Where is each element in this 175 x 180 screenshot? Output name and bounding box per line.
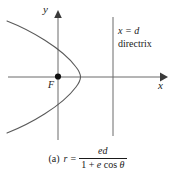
x-axis-label: x	[158, 80, 163, 91]
denominator-theta: θ	[120, 159, 125, 170]
denominator-plus: +	[89, 159, 95, 170]
caption-equation: (a) r = ed 1 + e cos θ	[0, 146, 175, 170]
directrix-equation-label: x = d	[118, 26, 152, 36]
focus-label: F	[48, 80, 54, 90]
caption-part-label: (a)	[48, 153, 59, 164]
conic-section-figure: y x F x = d directrix (a) r = ed 1 + e c…	[0, 0, 175, 180]
fraction-denominator: 1 + e cos θ	[79, 159, 126, 171]
fraction-numerator: ed	[94, 146, 111, 158]
denominator-e: e	[97, 159, 101, 170]
y-axis-label: y	[43, 4, 48, 15]
equation-fraction: ed 1 + e cos θ	[79, 146, 126, 170]
equation-lhs: r	[64, 153, 68, 164]
directrix-name-label: directrix	[118, 39, 152, 49]
denominator-one: 1	[81, 159, 86, 170]
focus-point	[55, 73, 61, 79]
equation-equals-sign: =	[71, 153, 77, 164]
directrix-annotation: x = d directrix	[118, 26, 152, 49]
denominator-cos: cos	[104, 159, 117, 170]
x-axis	[8, 73, 168, 82]
